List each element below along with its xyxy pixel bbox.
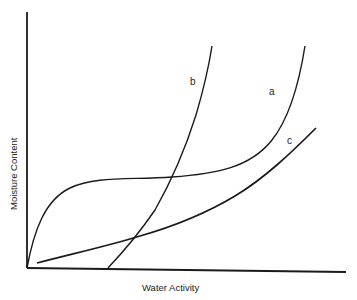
curve-b-label: b	[190, 76, 196, 87]
curve-c	[37, 128, 316, 263]
curve-c-label: c	[287, 135, 292, 146]
curve-a-label: a	[269, 86, 275, 97]
y-axis-title: Moisture Content	[8, 137, 19, 210]
curve-a	[27, 46, 305, 268]
x-axis-title: Water Activity	[142, 282, 199, 293]
moisture-sorption-chart: a b c Water Activity Moisture Content	[0, 0, 357, 300]
x-axis	[27, 268, 346, 272]
curve-b	[108, 46, 212, 268]
